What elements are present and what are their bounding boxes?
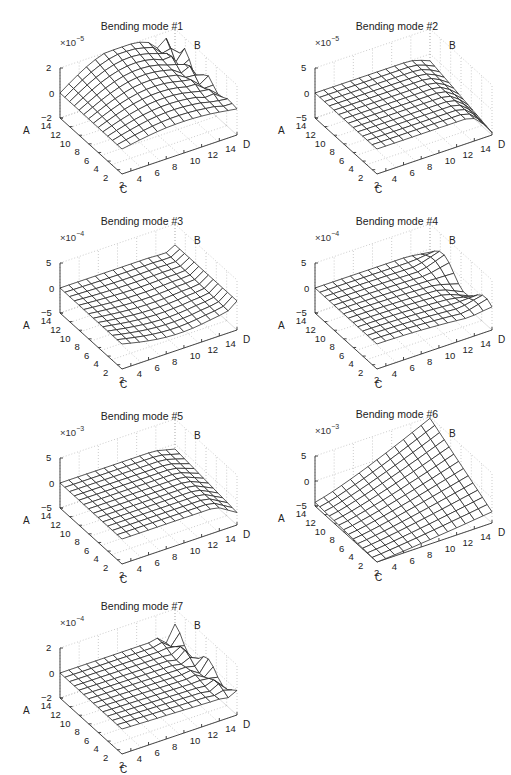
axis-label-a: A [23,320,30,331]
plot-title: Bending mode #4 [356,215,438,227]
surface-panel-1: Bending mode #1 ×10−5 2 0 −2 A B C D 246… [0,0,255,195]
d-tick-label: 6 [409,167,414,178]
c-tick-label: 10 [60,138,71,149]
c-tick-label: 10 [315,138,326,149]
scale-factor: ×10−5 [315,36,339,48]
surface-panel-2: Bending mode #2 ×10−5 5 0 −5 A B C D 246… [255,0,510,195]
axis-label-d: D [498,334,505,345]
c-tick-label: 14 [41,120,52,131]
axis-label-a: A [23,705,30,716]
c-tick-label: 2 [103,562,108,573]
axis-label-d: D [243,529,250,540]
d-tick-label: 2 [119,179,124,190]
c-tick-label: 10 [60,333,71,344]
plot-title: Bending mode #7 [101,600,183,612]
d-tick-label: 8 [172,551,177,562]
c-tick-label: 8 [329,534,334,545]
z-tick-zero: 0 [49,283,54,294]
c-tick-label: 12 [50,519,61,530]
plot-title: Bending mode #1 [101,20,183,32]
d-tick-label: 4 [392,561,397,572]
d-tick-label: 14 [225,533,236,544]
axis-label-a: A [278,320,285,331]
c-tick-label: 4 [93,358,98,369]
d-tick-label: 14 [225,723,236,734]
surface-mesh [60,624,237,729]
d-tick-label: 10 [445,155,456,166]
c-tick-label: 14 [296,508,307,519]
plot-title: Bending mode #2 [356,20,438,32]
axis-label-b: B [449,235,456,246]
d-tick-label: 10 [445,350,456,361]
z-tick-top: 2 [46,62,51,73]
d-tick-label: 4 [392,173,397,184]
c-tick-label: 8 [74,341,79,352]
axis-label-a: A [278,513,285,524]
d-tick-label: 14 [225,338,236,349]
d-tick-label: 14 [480,143,491,154]
d-tick-label: 8 [427,356,432,367]
c-tick-label: 2 [103,367,108,378]
z-tick-zero: 0 [304,88,309,99]
c-tick-label: 12 [305,129,316,140]
c-tick-label: 12 [50,324,61,335]
surface-mesh [60,449,237,539]
d-tick-label: 4 [137,563,142,574]
c-tick-label: 4 [93,553,98,564]
z-tick-top: 5 [46,257,51,268]
surface-panel-5: Bending mode #5 ×10−3 5 0 −5 A B C D 246… [0,390,255,585]
scale-factor: ×10−4 [60,616,84,628]
d-tick-label: 8 [172,161,177,172]
d-tick-label: 4 [137,753,142,764]
c-tick-label: 14 [41,700,52,711]
z-tick-top: 5 [301,257,306,268]
c-tick-label: 10 [315,526,326,537]
axis-label-b: B [194,235,201,246]
c-tick-label: 6 [84,155,89,166]
axis-label-b: B [194,430,201,441]
c-tick-label: 8 [74,146,79,157]
c-tick-label: 4 [93,743,98,754]
c-tick-label: 8 [74,726,79,737]
axis-label-b: B [449,428,456,439]
plot-title: Bending mode #6 [356,408,438,420]
d-tick-label: 2 [119,374,124,385]
c-tick-label: 14 [41,315,52,326]
surface-mesh [60,245,237,344]
axis-label-d: D [243,334,250,345]
c-tick-label: 4 [348,551,353,562]
c-tick-label: 12 [305,517,316,528]
d-tick-label: 2 [374,179,379,190]
c-tick-label: 6 [84,350,89,361]
axis-label-d: D [243,139,250,150]
c-tick-label: 2 [358,560,363,571]
d-tick-label: 4 [137,368,142,379]
d-tick-label: 2 [374,567,379,578]
c-tick-label: 14 [296,120,307,131]
c-tick-label: 2 [103,172,108,183]
axis-label-b: B [194,40,201,51]
d-tick-label: 12 [207,149,218,160]
c-tick-label: 10 [60,718,71,729]
d-tick-label: 8 [427,161,432,172]
c-tick-label: 4 [93,163,98,174]
z-tick-zero: 0 [304,283,309,294]
d-tick-label: 2 [119,569,124,580]
c-tick-label: 8 [329,341,334,352]
d-tick-label: 14 [480,338,491,349]
z-tick-zero: 0 [49,668,54,679]
scale-factor: ×10−4 [60,231,84,243]
d-tick-label: 10 [190,735,201,746]
z-tick-zero: 0 [49,478,54,489]
c-tick-label: 8 [74,536,79,547]
d-tick-label: 10 [190,155,201,166]
d-tick-label: 8 [172,356,177,367]
c-tick-label: 2 [358,367,363,378]
d-tick-label: 4 [137,173,142,184]
surface-panel-6: Bending mode #6 ×10−3 5 0 −5 A B C D 246… [255,388,510,583]
scale-factor: ×10−4 [315,231,339,243]
c-tick-label: 6 [339,350,344,361]
d-tick-label: 6 [409,362,414,373]
c-tick-label: 14 [296,315,307,326]
c-tick-label: 14 [41,510,52,521]
